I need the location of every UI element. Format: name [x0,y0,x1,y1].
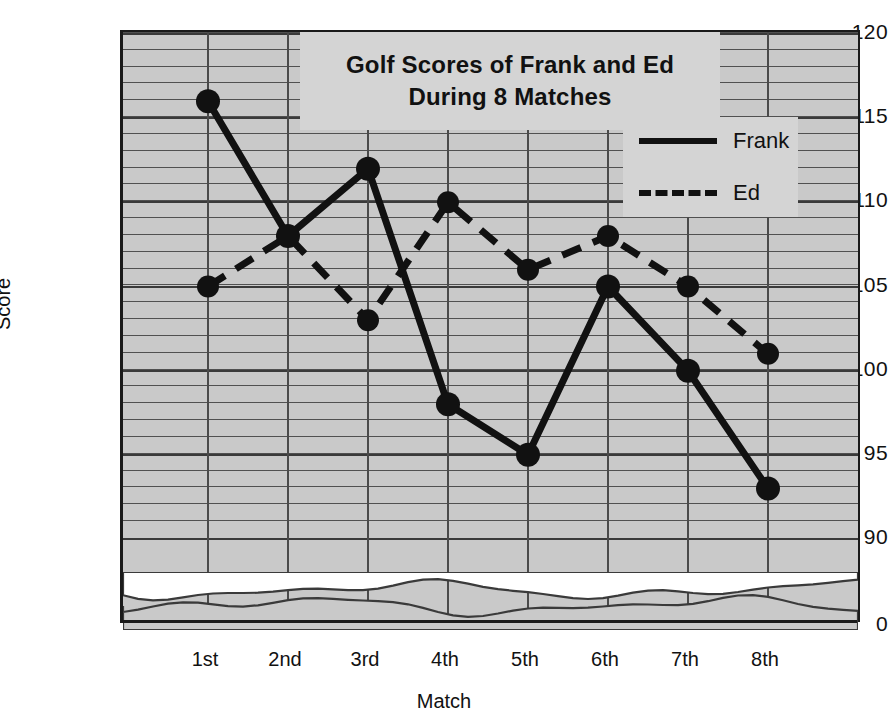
data-point-frank-6th [596,275,620,299]
x-axis-title: Match [0,690,888,713]
data-point-frank-8th [756,477,780,501]
data-point-ed-4th [437,191,459,213]
chart-figure: 12011511010510095900 Score Golf Scores o… [0,0,888,723]
x-axis-tick-3rd: 3rd [320,648,410,671]
chart-title-panel: Golf Scores of Frank and Ed During 8 Mat… [300,32,720,130]
x-axis-line [120,620,857,623]
data-point-ed-1st [197,276,219,298]
data-point-frank-5th [516,443,540,467]
data-point-ed-5th [517,259,539,281]
x-axis-tick-2nd: 2nd [240,648,330,671]
series-markers-ed [197,191,779,365]
legend-label-frank: Frank [733,128,789,154]
chart-title-line-1: Golf Scores of Frank and Ed [346,51,674,79]
data-point-ed-3rd [357,309,379,331]
legend-label-ed: Ed [733,180,760,206]
data-point-frank-1st [196,89,220,113]
legend-key-dashed-line-icon [639,190,717,196]
y-axis-title: Score [0,278,15,330]
x-axis-tick-5th: 5th [480,648,570,671]
data-point-ed-6th [597,225,619,247]
x-axis-tick-8th: 8th [720,648,810,671]
x-axis-tick-4th: 4th [400,648,490,671]
data-point-frank-7th [676,359,700,383]
legend-item-frank: Frank [639,128,798,154]
x-axis-tick-6th: 6th [560,648,650,671]
legend: Frank Ed [623,117,798,217]
data-point-ed-8th [757,343,779,365]
legend-item-ed: Ed [639,180,798,206]
chart-title-line-2: During 8 Matches [408,83,611,111]
legend-key-solid-line-icon [639,138,717,144]
data-point-ed-7th [677,276,699,298]
data-point-frank-4th [436,392,460,416]
data-point-frank-3rd [356,157,380,181]
x-axis-tick-1st: 1st [160,648,250,671]
x-axis-tick-7th: 7th [640,648,730,671]
plot-area: Golf Scores of Frank and Ed During 8 Mat… [120,30,860,622]
data-point-frank-2nd [276,224,300,248]
